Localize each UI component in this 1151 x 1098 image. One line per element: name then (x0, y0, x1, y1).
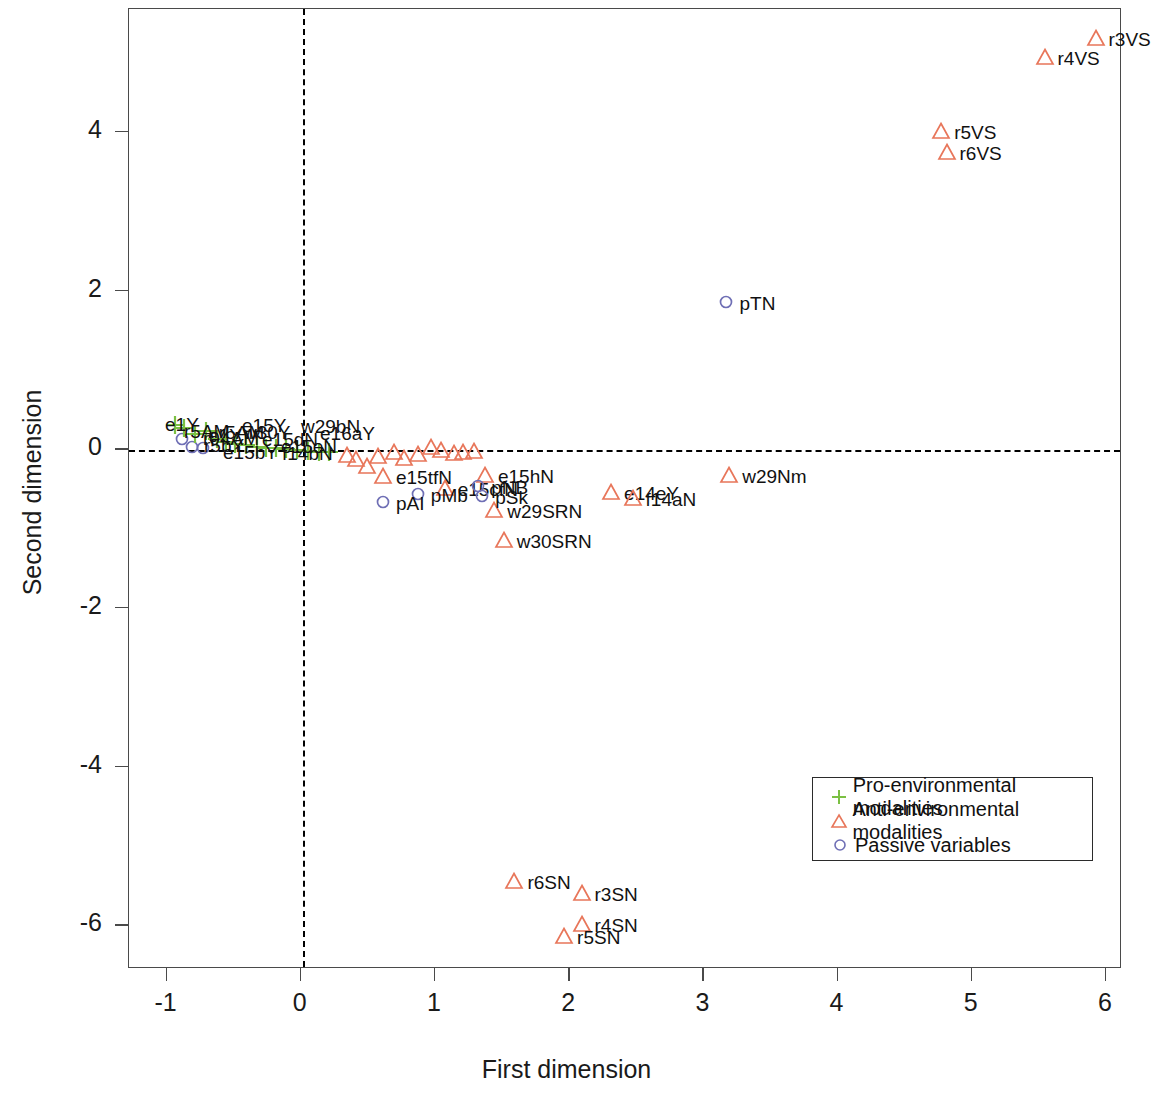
x-tick-mark (434, 968, 435, 981)
x-tick-label: 4 (807, 988, 867, 1017)
data-point-circle (471, 485, 493, 507)
x-tick-label: 0 (270, 988, 330, 1017)
x-axis-title: First dimension (0, 1055, 1133, 1084)
legend-item-anti: Anti-environmental modalities (813, 809, 1092, 833)
y-tick-mark (115, 290, 128, 291)
x-tick-mark (971, 968, 972, 981)
data-point-triangle (553, 925, 575, 947)
point-label: w30SRN (517, 532, 592, 551)
point-label: r6SN (527, 873, 570, 892)
x-tick-mark (702, 968, 703, 981)
y-tick-mark (115, 924, 128, 925)
data-point-triangle (930, 120, 952, 142)
data-point-circle (372, 491, 394, 513)
point-label: pAI (396, 494, 425, 513)
data-point-triangle (503, 870, 525, 892)
x-tick-mark (568, 968, 569, 981)
x-tick-label: -1 (136, 988, 196, 1017)
y-tick-label: 2 (56, 274, 102, 303)
cluster-point-label: e16aY (320, 424, 375, 443)
data-point-triangle (571, 882, 593, 904)
y-tick-label: 4 (56, 115, 102, 144)
x-tick-label: 1 (404, 988, 464, 1017)
x-tick-label: 5 (941, 988, 1001, 1017)
point-label: r3SN (595, 885, 638, 904)
data-point-triangle (600, 481, 622, 503)
y-tick-mark (115, 607, 128, 608)
plus-icon (825, 787, 853, 807)
y-axis-title: Second dimension (18, 303, 47, 683)
cluster-point-label: f14bN (282, 444, 333, 463)
x-tick-mark (166, 968, 167, 981)
data-point-triangle (718, 464, 740, 486)
x-tick-label: 6 (1075, 988, 1135, 1017)
vertical-reference-line (303, 9, 305, 967)
point-label: r3VS (1109, 30, 1151, 49)
legend-label-passive: Passive variables (855, 834, 1011, 857)
y-tick-mark (115, 131, 128, 132)
chart-legend: Pro-environmental modalities Anti-enviro… (812, 777, 1093, 861)
data-point-triangle (1085, 27, 1107, 49)
circle-icon (825, 835, 855, 855)
point-label: f14aN (646, 490, 697, 509)
x-tick-mark (300, 968, 301, 981)
data-point-circle (715, 291, 737, 313)
x-tick-mark (1105, 968, 1106, 981)
y-tick-label: -4 (56, 750, 102, 779)
x-tick-label: 3 (672, 988, 732, 1017)
y-tick-mark (115, 766, 128, 767)
y-tick-label: -6 (56, 908, 102, 937)
point-label: r5VS (954, 123, 996, 142)
y-tick-label: 0 (56, 432, 102, 461)
data-point-triangle (493, 529, 515, 551)
point-label: r4VS (1058, 49, 1100, 68)
triangle-icon (825, 811, 852, 831)
point-label: pSk (495, 488, 528, 507)
point-label: pMb (431, 486, 468, 505)
data-point-triangle (463, 440, 485, 462)
data-point-triangle (1034, 46, 1056, 68)
y-tick-label: -2 (56, 591, 102, 620)
data-point-triangle (622, 487, 644, 509)
point-label: pTN (739, 294, 775, 313)
data-point-triangle (936, 141, 958, 163)
y-tick-mark (115, 448, 128, 449)
x-tick-label: 2 (538, 988, 598, 1017)
x-tick-mark (837, 968, 838, 981)
point-label: r6VS (960, 144, 1002, 163)
point-label: r5SN (577, 928, 620, 947)
point-label: w29Nm (742, 467, 806, 486)
